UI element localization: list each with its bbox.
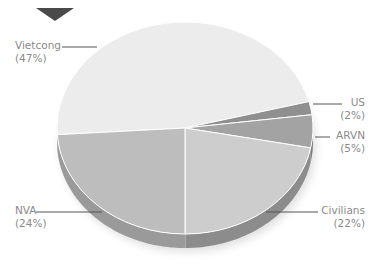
label-name: Vietcong	[15, 39, 61, 52]
label-us: US (2%)	[340, 96, 365, 122]
label-name: NVA	[15, 204, 47, 217]
label-nva: NVA (24%)	[15, 204, 47, 230]
label-pct: (2%)	[340, 109, 365, 122]
label-name: ARVN	[336, 129, 365, 142]
label-civilians: Civilians (22%)	[321, 204, 365, 230]
label-name: Civilians	[321, 204, 365, 217]
label-arvn: ARVN (5%)	[336, 129, 365, 155]
label-pct: (5%)	[336, 142, 365, 155]
label-pct: (22%)	[321, 217, 365, 230]
label-pct: (24%)	[15, 217, 47, 230]
label-pct: (47%)	[15, 52, 61, 65]
slice-nva	[57, 128, 185, 234]
marker-triangle-icon	[36, 8, 74, 21]
label-name: US	[340, 96, 365, 109]
pie-slices	[57, 22, 313, 234]
label-vietcong: Vietcong (47%)	[15, 39, 61, 65]
